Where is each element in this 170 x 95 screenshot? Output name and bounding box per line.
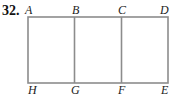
label-e: E — [161, 84, 168, 95]
label-f: F — [118, 84, 125, 95]
label-d: D — [160, 4, 169, 16]
label-c: C — [118, 4, 126, 16]
label-h: H — [28, 84, 37, 95]
label-b: B — [72, 4, 79, 16]
label-g: G — [71, 84, 80, 95]
outer-rectangle — [28, 17, 168, 83]
label-a: A — [25, 4, 32, 16]
